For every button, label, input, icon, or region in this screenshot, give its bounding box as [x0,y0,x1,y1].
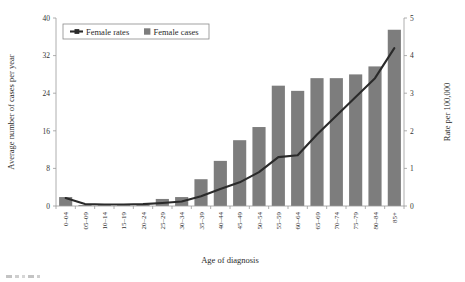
bar-35-39 [194,179,207,206]
category-axis-ticks: 0–0405–0910–1415–1920–2425–2930–3435–394… [56,206,404,230]
bar-40-44 [214,161,227,206]
legend-label: Female rates [86,27,129,37]
bar-50-54 [252,127,265,206]
right-axis-ticks: 012345 [404,14,414,211]
left-tick-label: 8 [46,164,50,173]
bar-65-69 [310,78,323,206]
category-label-75-79: 75–79 [352,212,360,230]
category-label-55-59: 55–59 [275,212,283,230]
category-label-15-19: 15–19 [120,212,128,230]
bar-70-74 [330,78,343,206]
right-tick-label: 0 [410,202,414,211]
left-tick-label: 24 [43,89,51,98]
category-label-25-29: 25–29 [159,212,167,230]
bars-group [59,30,401,206]
right-tick-label: 1 [410,164,414,173]
right-tick-label: 5 [410,14,414,23]
legend-label: Female cases [154,27,199,37]
category-label-85+: 85+ [391,212,399,223]
bar-45-49 [233,140,246,206]
category-label-30-34: 30–34 [178,212,186,230]
chart-legend: Female ratesFemale cases [63,24,209,39]
bar-55-59 [272,86,285,206]
category-label-05-09: 05–09 [82,212,90,230]
right-tick-label: 3 [410,89,414,98]
category-label-0-04: 0–04 [62,212,70,227]
combo-chart: 0816243240 012345 0–0405–0910–1415–1920–… [0,0,465,282]
category-label-45-49: 45–49 [236,211,244,229]
left-tick-label: 16 [43,127,51,136]
bar-75-79 [349,74,362,206]
plot-area [59,30,401,206]
right-tick-label: 2 [410,127,414,136]
category-label-65-69: 65–69 [314,212,322,230]
left-axis-title: Average number of cases per year [6,54,16,169]
bar-80-84 [368,66,381,206]
x-axis-title: Age of diagnosis [201,255,259,265]
female-rates-line [66,48,395,204]
category-label-40-44: 40–44 [217,212,225,230]
left-tick-label: 0 [46,202,50,211]
right-tick-label: 4 [410,51,414,60]
category-label-20-24: 20–24 [140,212,148,230]
chart-figure: 0816243240 012345 0–0405–0910–1415–1920–… [0,0,465,282]
category-label-80-84: 80–84 [372,212,380,230]
category-label-35-39: 35–39 [198,212,206,230]
scan-edge-artifact [6,275,40,278]
category-label-60-64: 60–64 [294,212,302,230]
legend-marker-square [144,28,150,34]
category-label-10-14: 10–14 [101,212,109,230]
category-label-70-74: 70–74 [333,212,341,230]
left-tick-label: 40 [43,14,51,23]
legend-marker-point [75,29,80,34]
category-label-50-54: 50–54 [256,212,264,230]
bar-60-64 [291,91,304,206]
left-axis-ticks: 0816243240 [43,14,57,211]
left-tick-label: 32 [43,51,51,60]
right-axis-title: Rate per 100,000 [442,83,452,141]
